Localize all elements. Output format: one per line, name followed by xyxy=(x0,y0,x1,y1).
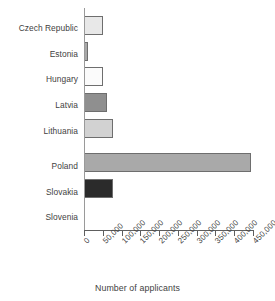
plot-area xyxy=(84,8,253,229)
category-label-poland: Poland xyxy=(52,161,78,171)
category-label-estonia: Estonia xyxy=(50,49,78,59)
category-label-lithuania: Lithuania xyxy=(44,126,78,136)
x-axis-title: Number of applicants xyxy=(0,283,275,293)
bar-lithuania xyxy=(84,119,113,138)
bar-slovakia xyxy=(84,179,113,198)
bar-chart: Czech Republic Estonia Hungary Latvia Li… xyxy=(0,0,275,301)
bar-czech-republic xyxy=(84,16,103,35)
x-tick-label-0: 0 xyxy=(82,236,92,246)
category-label-slovenia: Slovenia xyxy=(45,212,78,222)
bar-latvia xyxy=(84,93,107,112)
category-label-hungary: Hungary xyxy=(46,74,78,84)
bar-poland xyxy=(84,153,251,172)
category-label-czech-republic: Czech Republic xyxy=(19,23,78,33)
category-label-latvia: Latvia xyxy=(55,100,78,110)
y-axis-line xyxy=(84,8,85,231)
bar-hungary xyxy=(84,67,103,86)
category-label-slovakia: Slovakia xyxy=(46,187,78,197)
